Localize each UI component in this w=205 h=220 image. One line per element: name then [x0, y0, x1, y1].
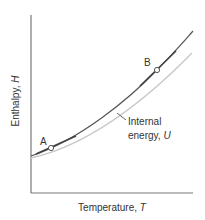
- internal-energy-label-line1: Internal: [128, 116, 161, 127]
- internal-energy-var: U: [163, 130, 171, 141]
- point-a-label: A: [40, 136, 47, 147]
- x-axis-label: Temperature, T: [78, 202, 147, 213]
- point-a-marker: [48, 145, 53, 150]
- x-axis-label-text: Temperature,: [78, 202, 140, 213]
- point-b-marker: [154, 67, 159, 72]
- y-axis-label-var: H: [10, 75, 21, 83]
- internal-energy-label-text: energy,: [128, 130, 163, 141]
- y-axis-label: Enthalpy, H: [10, 75, 21, 127]
- y-axis-label-text: Enthalpy,: [10, 83, 21, 127]
- point-b-label: B: [144, 57, 151, 68]
- x-axis-label-var: T: [140, 202, 147, 213]
- internal-energy-label-line2: energy, U: [128, 130, 171, 141]
- internal-energy-curve: [31, 53, 192, 158]
- enthalpy-temperature-diagram: A B Internal energy, U Temperature, T En…: [0, 0, 205, 220]
